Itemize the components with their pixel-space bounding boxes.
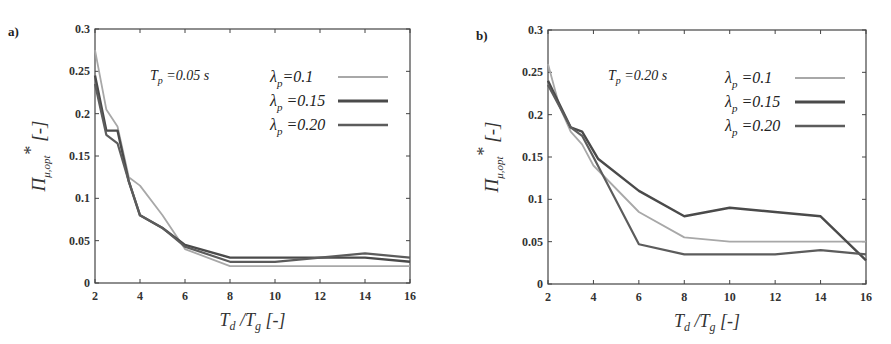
legend: λp=0.1λp =0.15λp =0.20: [269, 68, 388, 137]
x-tick-label: 6: [182, 289, 188, 303]
y-tick-label: 0.05: [522, 235, 543, 249]
x-tick-label: 4: [137, 289, 143, 303]
x-tick-label: 12: [769, 290, 781, 304]
y-tick-label: 0.15: [522, 150, 543, 164]
series-line: [548, 85, 866, 254]
x-tick-label: 16: [404, 289, 416, 303]
x-axis-label: Td /Tg [-]: [674, 311, 740, 334]
y-tick-label: 0.3: [75, 22, 90, 36]
chart-panel-a: a)24681012141600.050.10.150.20.250.3Td /…: [0, 0, 440, 344]
y-tick-label: 0.05: [69, 234, 90, 248]
x-tick-label: 4: [590, 290, 596, 304]
x-tick-label: 2: [545, 290, 551, 304]
y-tick-label: 0.25: [522, 65, 543, 79]
y-tick-label: 0.2: [528, 108, 543, 122]
x-tick-label: 2: [92, 289, 98, 303]
x-tick-label: 8: [681, 290, 687, 304]
x-tick-label: 12: [314, 289, 326, 303]
y-tick-label: 0.1: [75, 191, 90, 205]
x-tick-label: 14: [359, 289, 371, 303]
y-tick-label: 0.25: [69, 64, 90, 78]
x-tick-label: 10: [269, 289, 281, 303]
series-line: [95, 50, 410, 266]
plot-frame: [95, 29, 410, 283]
x-tick-label: 6: [636, 290, 642, 304]
panel-label: b): [476, 28, 488, 43]
line-chart-a: a)24681012141600.050.10.150.20.250.3Td /…: [0, 0, 440, 344]
series-line: [95, 76, 410, 262]
legend-label: λp =0.15: [724, 93, 780, 114]
x-axis-label: Td /Tg [-]: [219, 310, 285, 333]
x-tick-label: 14: [815, 290, 827, 304]
legend-label: λp =0.15: [269, 92, 325, 113]
period-annotation: Tp =0.20 s: [608, 68, 668, 86]
y-tick-label: 0.3: [528, 23, 543, 37]
y-tick-label: 0.2: [75, 107, 90, 121]
legend-label: λp =0.20: [269, 116, 325, 137]
y-tick-label: 0: [84, 276, 90, 290]
line-chart-b: b)24681012141600.050.10.150.20.250.3Td /…: [440, 0, 891, 344]
chart-panel-b: b)24681012141600.050.10.150.20.250.3Td /…: [440, 0, 891, 344]
legend-label: λp =0.1: [724, 69, 772, 90]
x-tick-label: 16: [860, 290, 872, 304]
y-tick-label: 0: [537, 277, 543, 291]
period-annotation: Tp =0.05 s: [150, 68, 210, 86]
series-line: [95, 84, 410, 262]
y-tick-label: 0.15: [69, 149, 90, 163]
legend-label: λp=0.1: [269, 68, 313, 89]
x-tick-label: 8: [227, 289, 233, 303]
legend-label: λp =0.20: [724, 117, 780, 138]
y-axis-label: Πμ,opt* [-]: [474, 122, 505, 194]
legend: λp =0.1λp =0.15λp =0.20: [724, 69, 845, 138]
y-tick-label: 0.1: [528, 192, 543, 206]
y-axis-label: Πμ,opt* [-]: [21, 121, 52, 193]
x-tick-label: 10: [724, 290, 736, 304]
panel-label: a): [8, 24, 19, 39]
series-line: [548, 81, 866, 260]
